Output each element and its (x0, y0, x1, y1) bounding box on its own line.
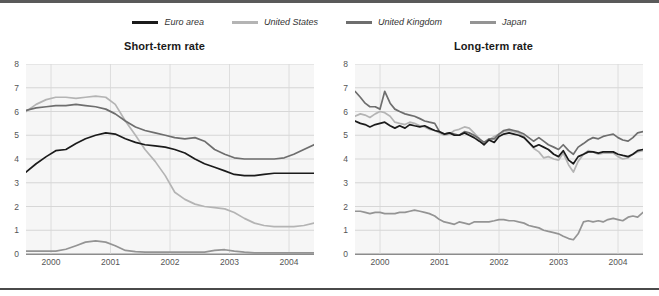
x-tick-label: 2003 (220, 258, 239, 267)
legend-item-label: Euro area (164, 17, 204, 27)
plot-area (355, 64, 643, 254)
plot-svg (355, 64, 643, 254)
x-axis-labels: 20002001200220032004 (355, 258, 643, 274)
y-tick-label: 6 (343, 107, 348, 116)
legend: Euro areaUnited StatesUnited KingdomJapa… (0, 14, 659, 30)
y-tick-label: 0 (343, 250, 348, 259)
y-tick-label: 3 (343, 179, 348, 188)
legend-item-japan: Japan (470, 17, 527, 27)
y-axis-labels: 012345678 (0, 64, 22, 254)
legend-item-euro-area: Euro area (132, 17, 204, 27)
y-tick-label: 2 (343, 202, 348, 211)
x-tick-label: 2004 (609, 258, 628, 267)
y-tick-label: 3 (14, 179, 19, 188)
legend-item-united-states: United States (232, 17, 318, 27)
legend-item-label: United Kingdom (378, 17, 442, 27)
plot-area (26, 64, 314, 254)
x-axis-line (26, 254, 314, 255)
y-axis-labels: 012345678 (329, 64, 351, 254)
legend-item-label: United States (264, 17, 318, 27)
chart-figure: Euro areaUnited StatesUnited KingdomJapa… (0, 0, 659, 296)
x-tick-label: 2000 (371, 258, 390, 267)
x-tick-label: 2004 (280, 258, 299, 267)
panel-title: Long-term rate (329, 40, 658, 52)
y-tick-label: 5 (343, 131, 348, 140)
line-swatch-icon (346, 21, 372, 24)
chart-panel-short-term: Short-term rate0123456782000200120022003… (0, 36, 329, 281)
chart-panels: Short-term rate0123456782000200120022003… (0, 36, 659, 281)
x-tick-label: 2001 (101, 258, 120, 267)
y-tick-label: 7 (343, 84, 348, 93)
figure-top-rule (0, 0, 659, 3)
x-tick-label: 2003 (549, 258, 568, 267)
panel-title: Short-term rate (0, 40, 329, 52)
y-tick-label: 0 (14, 250, 19, 259)
y-tick-label: 1 (343, 226, 348, 235)
y-tick-label: 8 (343, 60, 348, 69)
x-axis-labels: 20002001200220032004 (26, 258, 314, 274)
y-tick-label: 1 (14, 226, 19, 235)
legend-item-label: Japan (502, 17, 527, 27)
x-axis-line (355, 254, 643, 255)
legend-item-united-kingdom: United Kingdom (346, 17, 442, 27)
y-tick-label: 6 (14, 107, 19, 116)
x-tick-label: 2000 (42, 258, 61, 267)
line-swatch-icon (232, 21, 258, 24)
x-tick-label: 2001 (430, 258, 449, 267)
y-tick-label: 2 (14, 202, 19, 211)
x-tick-label: 2002 (490, 258, 509, 267)
y-tick-label: 8 (14, 60, 19, 69)
y-tick-label: 4 (343, 155, 348, 164)
chart-panel-long-term: Long-term rate01234567820002001200220032… (329, 36, 658, 281)
x-tick-label: 2002 (161, 258, 180, 267)
line-swatch-icon (470, 21, 496, 24)
y-tick-label: 5 (14, 131, 19, 140)
line-swatch-icon (132, 21, 158, 24)
plot-svg (26, 64, 314, 254)
y-tick-label: 4 (14, 155, 19, 164)
y-tick-label: 7 (14, 84, 19, 93)
figure-bottom-rule (0, 288, 659, 290)
